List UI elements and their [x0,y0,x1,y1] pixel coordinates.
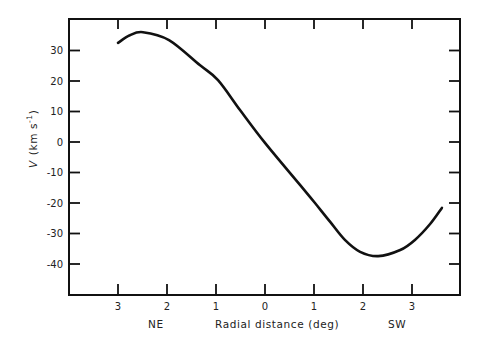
plot-border [69,19,460,295]
chart: 3020100-10-20-30-40 3210123 NE SW Radial… [0,0,484,345]
x-tick-label: 1 [311,301,317,312]
x-tick-label: 0 [262,301,268,312]
y-tick-label: 10 [50,106,63,117]
sw-direction-label: SW [388,318,406,330]
x-tick-label: 1 [213,301,219,312]
y-axis-label-symbol: V [27,160,39,168]
y-tick-label: 20 [50,76,63,87]
x-axis-label: Radial distance (deg) [215,318,339,330]
ne-direction-label: NE [148,318,164,330]
y-tick-label: -10 [47,167,63,178]
y-tick-label: -20 [47,198,63,209]
x-tick-label: 3 [409,301,415,312]
y-axis-label-units: (km s [27,123,39,155]
svg-text:V(km s-1): V(km s-1) [25,110,39,168]
y-axis-ticks: 3020100-10-20-30-40 [47,45,460,270]
y-tick-label: 0 [57,137,63,148]
x-tick-label: 2 [164,301,170,312]
plot-frame [69,19,460,295]
x-tick-label: 2 [360,301,366,312]
y-tick-label: -40 [47,259,63,270]
y-axis-label-superscript: -1 [25,114,34,123]
y-axis-label: V(km s-1) [25,110,39,168]
x-tick-label: 3 [115,301,121,312]
y-tick-label: 30 [50,45,63,56]
y-axis-label-close: ) [27,110,39,115]
x-axis-ticks: 3210123 [115,19,415,312]
velocity-curve [118,32,442,256]
y-tick-label: -30 [47,228,63,239]
